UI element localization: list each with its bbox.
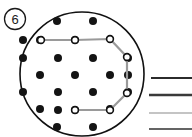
legend-lines [149, 78, 192, 129]
lattice-dot [19, 36, 27, 44]
polygon-vertex[interactable] [124, 90, 131, 97]
polygon-vertex[interactable] [124, 54, 131, 61]
lattice-dot [54, 54, 62, 62]
index-label-text: 6 [11, 12, 18, 27]
lattice-dot [89, 123, 97, 131]
figure-root: 6 [0, 0, 192, 137]
lattice-dot [19, 88, 27, 96]
polygon-vertex[interactable] [72, 107, 79, 114]
lattice-dot [53, 17, 61, 25]
lattice-dot [19, 54, 27, 62]
lattice-dot [36, 105, 44, 113]
lattice-dot [36, 71, 44, 79]
circled-number-6: 6 [5, 9, 26, 30]
lattice-dot [54, 88, 62, 96]
lattice-dot [54, 106, 62, 114]
polygon-vertex[interactable] [72, 37, 79, 44]
lattice-dot [71, 71, 79, 79]
lattice-dot [106, 71, 114, 79]
lattice-dot [89, 88, 97, 96]
lattice-dot [53, 123, 61, 131]
lattice-figure: 6 [0, 0, 192, 137]
lattice-dot [89, 54, 97, 62]
polygon-vertex[interactable] [38, 37, 45, 44]
polygon-vertex[interactable] [107, 36, 114, 43]
lattice-dot [89, 17, 97, 25]
polygon-vertex[interactable] [107, 107, 114, 114]
